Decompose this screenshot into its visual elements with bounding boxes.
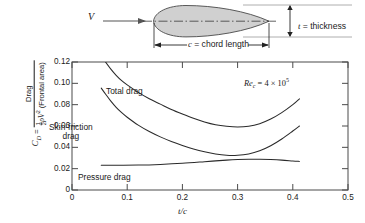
freestream-velocity-label: V [88,12,94,22]
y-axis-title: CD = Drag 12ρV2 (Frontal area) [25,43,48,163]
one-half-fraction: 12 [36,122,48,125]
thickness-text: = thickness [300,21,346,31]
x-tick-label-2: 0.2 [162,194,202,202]
frontal-area-text: (Frontal area) [36,62,45,108]
thickness-arrow-down-icon [287,32,292,37]
curve-label-skin-friction-drag: Skin-friction drag [49,123,93,142]
y-axis-symbol-subscript: D [35,136,42,141]
y-axis-symbol: CD [30,136,42,147]
x-tick-label-0: 0 [52,194,92,202]
velocity-symbol: V [36,113,45,118]
chord-label: c = chord length [188,40,249,49]
x-tick-label-5: 0.5 [328,194,365,202]
chord-arrow-left-icon [154,42,161,47]
curve-label-pressure-drag: Pressure drag [78,173,131,182]
density-symbol: ρ [36,118,45,122]
chord-text: = chord length [192,39,249,49]
x-axis-title: t/c [0,206,365,216]
drag-coefficient-chart: 00.020.040.060.080.100.12 00.10.20.30.40… [0,56,365,223]
y-axis-fraction: Drag 12ρV2 (Frontal area) [25,60,48,127]
thickness-label: t = thickness [298,22,346,31]
reynolds-number-annotation: Rec = 4 × 105 [244,77,289,89]
one-half-den: 2 [42,122,47,125]
y-axis-equals: = [32,129,41,133]
reynolds-symbol: Re [244,79,253,88]
x-tick-label-1: 0.1 [107,194,147,202]
thickness-arrow-up-icon [287,5,292,10]
curve-label-skin-line2: drag [49,132,93,141]
velocity-exponent: 2 [35,110,41,113]
y-axis-fraction-bar [34,60,35,127]
x-tick-label-4: 0.4 [273,194,313,202]
curve-label-total-drag: Total drag [106,87,143,96]
chord-arrow-right-icon [262,42,269,47]
airfoil-diagram: V t = thickness c = chord length [0,0,365,56]
reynolds-value: = 4 × 10 [256,79,286,88]
x-tick-label-3: 0.3 [218,194,258,202]
figure-root: V t = thickness c = chord length 00.020.… [0,0,365,223]
reynolds-exponent: 5 [286,77,289,83]
y-axis-numerator: Drag [25,83,33,103]
y-axis-denominator: 12ρV2 (Frontal area) [36,60,48,127]
